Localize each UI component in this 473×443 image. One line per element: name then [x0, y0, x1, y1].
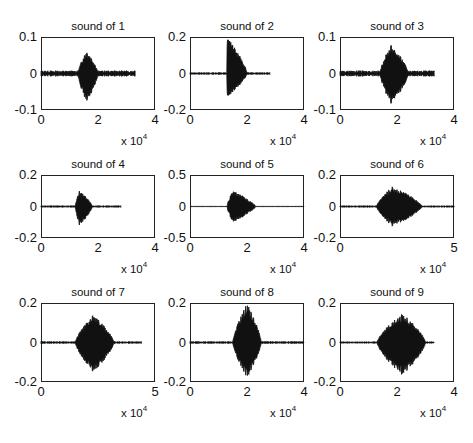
waveform-plot [0, 0, 473, 443]
